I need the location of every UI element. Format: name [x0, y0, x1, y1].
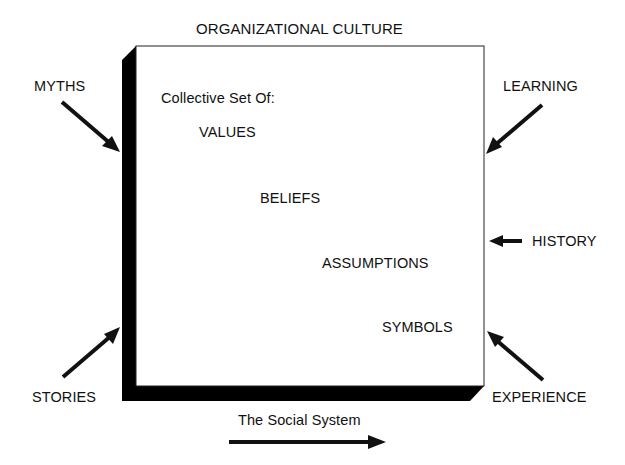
- experience-arrow-icon: [487, 331, 543, 380]
- learning-arrow-icon: [486, 105, 542, 154]
- history-arrow-icon: [489, 235, 522, 247]
- item-symbols: SYMBOLS: [382, 319, 453, 335]
- stories-arrow-icon: [63, 327, 120, 377]
- influence-experience: EXPERIENCE: [492, 389, 586, 405]
- diagram-title: ORGANIZATIONAL CULTURE: [196, 20, 403, 37]
- social-system-label: The Social System: [238, 412, 361, 428]
- item-values: VALUES: [199, 124, 256, 140]
- item-beliefs: BELIEFS: [260, 190, 320, 206]
- box-heading: Collective Set Of:: [161, 90, 275, 106]
- influence-history: HISTORY: [532, 233, 597, 249]
- influence-learning: LEARNING: [503, 78, 578, 94]
- myths-arrow-icon: [62, 102, 120, 152]
- item-assumptions: ASSUMPTIONS: [322, 255, 429, 271]
- influence-myths: MYTHS: [34, 78, 85, 94]
- social-system-arrow-icon: [229, 435, 386, 449]
- influence-stories: STORIES: [32, 389, 96, 405]
